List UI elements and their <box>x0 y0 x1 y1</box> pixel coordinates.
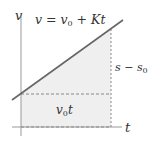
t-axis-label: t <box>125 120 131 135</box>
velocity-time-diagram: v t v = v0 + Kt s − s0 v0t <box>0 0 155 143</box>
line-equation-label: v = v0 + Kt <box>35 12 106 28</box>
v-axis-label: v <box>15 8 23 23</box>
displacement-label: s − s0 <box>115 61 148 75</box>
